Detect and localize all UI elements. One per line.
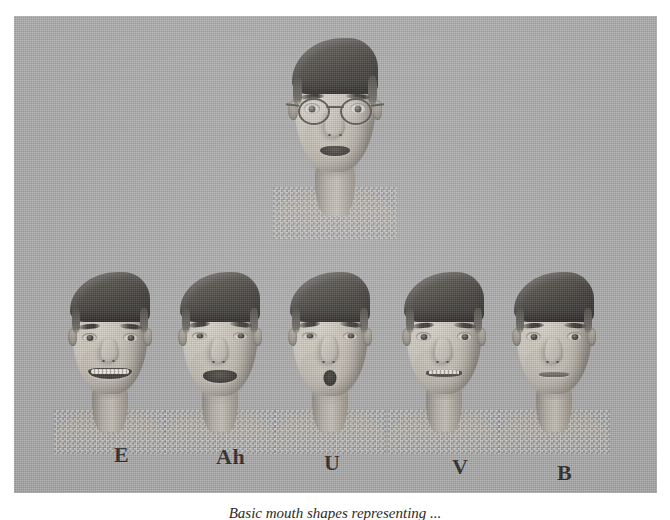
mouth-viseme-v — [426, 370, 462, 377]
hair — [180, 272, 260, 322]
nostril-right — [112, 360, 115, 362]
nostril-left — [322, 361, 325, 363]
eye-left — [192, 332, 207, 340]
viseme-label-b: B — [557, 460, 572, 486]
pupil-right — [347, 334, 354, 339]
viseme-label-v: V — [452, 454, 468, 480]
mouth-viseme-b — [539, 372, 569, 377]
pupil-left — [420, 334, 427, 340]
mouth-viseme-u — [324, 370, 337, 386]
hair — [70, 272, 150, 322]
eye-right — [343, 332, 358, 340]
glasses-lens-left — [298, 98, 330, 125]
eye-left — [302, 332, 317, 340]
teeth — [429, 370, 459, 373]
glasses-temple-right — [371, 103, 384, 106]
eye-right — [123, 333, 138, 342]
nose — [321, 336, 339, 364]
pupil-right — [461, 334, 468, 340]
sideburn-left — [292, 308, 300, 334]
eye-left — [526, 332, 541, 341]
figure-caption: Basic mouth shapes representing ... — [0, 505, 670, 520]
viseme-label-u: U — [324, 450, 340, 476]
pupil-left — [306, 334, 313, 339]
pupil-left — [86, 335, 93, 341]
glasses-temple-left — [286, 103, 299, 106]
figure-plate: E — [14, 16, 657, 493]
pupil-left — [196, 334, 203, 339]
nostril-left — [102, 360, 105, 362]
teeth — [91, 369, 130, 374]
nostril-left — [436, 361, 439, 363]
viseme-head-b: B — [488, 264, 620, 454]
pupil-right — [571, 334, 578, 340]
sideburn-right — [584, 308, 592, 334]
top-head-with-glasses — [260, 24, 410, 239]
sideburn-left — [406, 308, 414, 334]
nostril-left — [212, 361, 215, 363]
sideburn-right — [360, 308, 368, 334]
eye-left — [416, 332, 431, 341]
eye-right — [233, 332, 248, 340]
eye-left — [82, 333, 97, 342]
sideburn-left — [182, 308, 190, 334]
hair — [290, 272, 370, 322]
viseme-head-u: U — [264, 264, 396, 454]
viseme-label-ah: Ah — [216, 444, 245, 470]
nostril-right — [222, 361, 225, 363]
hair — [514, 272, 594, 322]
sideburn-right — [140, 308, 148, 334]
sideburn-left — [516, 308, 524, 334]
sideburn-left — [72, 308, 80, 334]
nostril-right — [332, 361, 335, 363]
nostril-left — [546, 361, 549, 363]
viseme-label-e: E — [114, 442, 129, 468]
eye-right — [567, 332, 582, 341]
sideburn-right — [250, 308, 258, 334]
nostril-right — [556, 361, 559, 363]
glasses-lens-right — [340, 98, 372, 125]
pupil-right — [127, 335, 134, 341]
eye-right — [457, 332, 472, 341]
figure-page: E — [0, 0, 670, 520]
sideburn-right — [474, 308, 482, 334]
hair — [404, 272, 484, 322]
pupil-right — [237, 334, 244, 339]
glasses-bridge — [326, 106, 344, 108]
pupil-left — [530, 334, 537, 340]
nostril-right — [446, 361, 449, 363]
glasses — [260, 24, 410, 239]
